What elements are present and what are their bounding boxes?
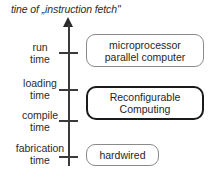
stage-box-hardwired: hardwired — [86, 144, 159, 166]
stage-box-microprocessor: microprocessor parallel computer — [86, 34, 204, 67]
axis-label-line1: compile — [6, 110, 74, 122]
stage-box-line2: Computing — [110, 103, 181, 115]
axis-label-line1: run — [6, 42, 74, 54]
clipped-caption-strip — [0, 168, 208, 172]
axis-label-line1: fabrication — [6, 143, 74, 155]
axis-label-run-time: run time — [6, 42, 74, 65]
stage-box-line1: Reconfigurable — [110, 91, 181, 103]
axis-label-line2: time — [6, 155, 74, 167]
axis-label-fabrication-time: fabrication time — [6, 143, 74, 166]
axis-label-loading-time: loading time — [6, 78, 74, 101]
diagram-canvas: tine of „instruction fetch" run time loa… — [0, 0, 208, 172]
stage-box-reconfigurable-computing: Reconfigurable Computing — [86, 86, 204, 120]
axis-label-line2: time — [6, 90, 74, 102]
axis-label-line2: time — [6, 122, 74, 134]
axis-label-compile-time: compile time — [6, 110, 74, 133]
axis-label-line1: loading — [6, 78, 74, 90]
axis-label-line2: time — [6, 54, 74, 66]
stage-box-line2: parallel computer — [105, 51, 186, 63]
stage-box-line1: microprocessor — [105, 39, 186, 51]
stage-box-line1: hardwired — [99, 149, 145, 161]
